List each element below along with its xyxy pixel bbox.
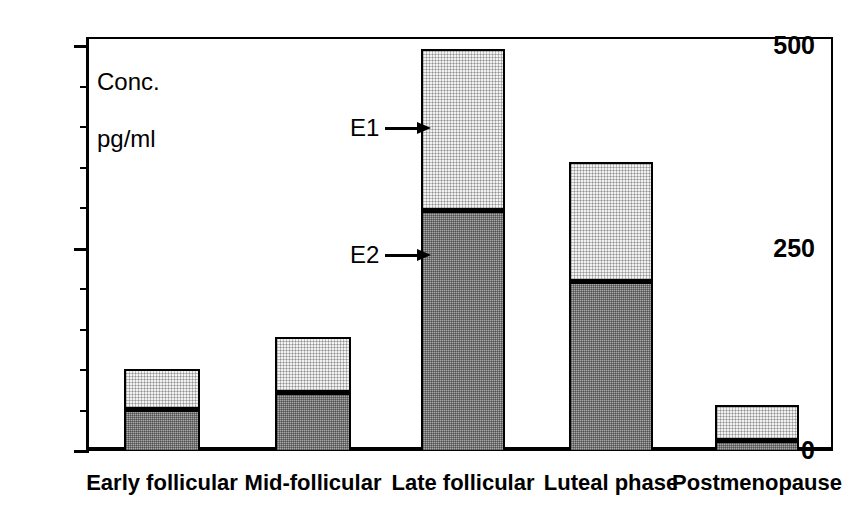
y-tick-100 [80,369,89,371]
y-tick-label-250: 250 [773,233,815,262]
bar-segment-e2 [569,282,653,450]
category-label-early-follicular: Early follicular [86,470,238,496]
y-tick-0 [74,450,89,453]
bar-segment-e1 [421,49,505,211]
category-label-luteal-phase: Luteal phase [544,470,678,496]
y-tick-300 [80,207,89,209]
bar-segment-e2 [421,211,505,450]
bar-early-follicular [124,369,200,450]
y-tick-500 [74,45,89,48]
bar-late-follicular [421,49,505,450]
y-tick-label-500: 500 [773,31,815,60]
y-tick-350 [80,167,89,169]
y-tick-400 [80,126,89,128]
arrow-right-icon [385,122,431,134]
bar-segment-e1 [124,369,200,410]
bar-mid-follicular [275,337,351,450]
bar-luteal-phase [569,162,653,450]
y-tick-250 [74,248,89,251]
bar-segment-e1 [569,162,653,281]
bar-segment-e1 [715,405,799,441]
arrow-right-icon [385,249,431,261]
y-tick-450 [80,86,89,88]
plot-area: 500 250 0 [89,45,833,450]
callout-e2: E2 [350,241,431,269]
callout-e1-label: E1 [350,114,379,142]
bar-postmenopause [715,405,799,450]
callout-e2-label: E2 [350,241,379,269]
callout-e1: E1 [350,114,431,142]
y-tick-50 [80,410,89,412]
y-tick-label-0: 0 [801,436,815,465]
bar-segment-e2 [124,410,200,451]
category-label-mid-follicular: Mid-follicular [245,470,382,496]
bar-segment-e2 [715,441,799,450]
stacked-bar-chart: Conc. pg/ml 500 250 0 [0,0,867,517]
bar-segment-e2 [275,393,351,450]
category-label-postmenopause: Postmenopause [672,470,842,496]
bar-segment-e1 [275,337,351,394]
y-tick-200 [80,288,89,290]
y-tick-150 [80,329,89,331]
category-label-late-follicular: Late follicular [391,470,534,496]
